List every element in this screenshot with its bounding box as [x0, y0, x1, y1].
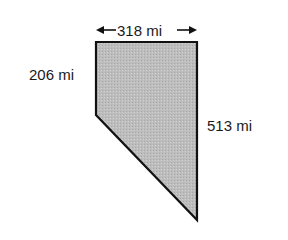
right-dimension-label: 513 mi — [207, 118, 252, 133]
region-shape — [96, 42, 197, 220]
left-dimension-label: 206 mi — [29, 67, 74, 82]
top-dimension-label: 318 mi — [117, 23, 162, 38]
